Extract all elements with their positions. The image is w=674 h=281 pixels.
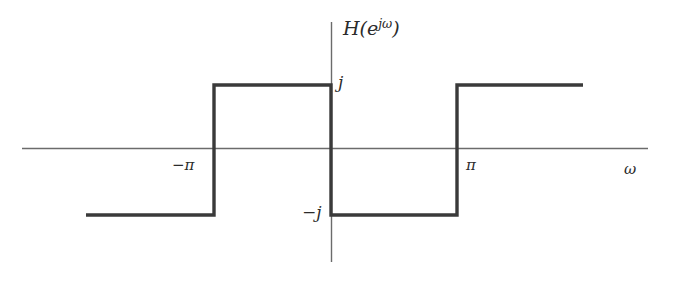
y-axis-label-close: ) (392, 17, 399, 39)
x-tick-label-negative-pi: −π (172, 158, 194, 173)
x-tick-label-pi: π (466, 158, 476, 173)
y-tick-label-negative-j: −j (302, 204, 322, 221)
y-axis-label-main: H(e (343, 17, 378, 39)
waveform-trace (86, 85, 583, 215)
figure-hilbert-transformer-response: H(ejω) j −j −π π ω (0, 0, 674, 281)
x-axis-label: ω (624, 162, 636, 177)
y-axis-label: H(ejω) (343, 18, 400, 38)
plot-area (0, 0, 674, 281)
y-tick-label-positive-j: j (338, 74, 343, 91)
y-axis-label-exponent: jω (378, 16, 392, 31)
